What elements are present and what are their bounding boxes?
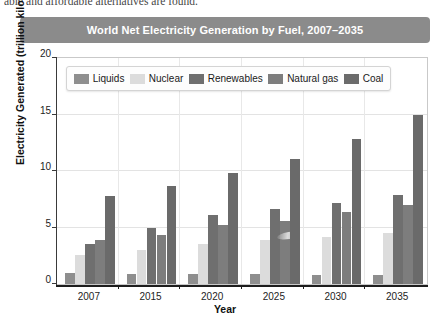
legend-label: Nuclear — [149, 73, 183, 84]
bar-coal-2020 — [228, 173, 237, 284]
plot-inner — [56, 58, 427, 284]
bar-renewables-2015 — [147, 228, 156, 285]
legend-item-coal: Coal — [344, 73, 384, 84]
bar-liquids-2007 — [65, 273, 74, 284]
bar-nuclear-2030 — [322, 237, 331, 284]
x-tick-label-2015: 2015 — [139, 291, 161, 302]
bar-nuclear-2007 — [75, 255, 84, 284]
plot-area — [56, 57, 428, 285]
x-tick — [241, 285, 242, 289]
bar-liquids-2020 — [188, 274, 197, 284]
x-tick-label-2030: 2030 — [324, 291, 346, 302]
y-axis: 05101520 — [56, 57, 57, 285]
bar-coal-2015 — [167, 186, 176, 284]
y-tick — [52, 57, 56, 58]
x-tick — [303, 285, 304, 289]
legend-label: Natural gas — [287, 73, 338, 84]
chart-legend: LiquidsNuclearRenewablesNatural gasCoal — [66, 66, 391, 91]
bar-natural-gas-2020 — [218, 225, 227, 284]
page-body-text: able and affordable alternatives are fou… — [4, 0, 264, 8]
y-tick-label: 15 — [40, 104, 51, 115]
x-tick — [179, 285, 180, 289]
bar-nuclear-2035 — [383, 233, 392, 284]
x-tick-label-2025: 2025 — [263, 291, 285, 302]
legend-swatch-icon — [344, 74, 359, 84]
bar-natural-gas-2007 — [95, 240, 104, 284]
y-tick-label: 10 — [40, 161, 51, 172]
chart-title-bar: World Net Electricity Generation by Fuel… — [20, 17, 430, 43]
group-separator — [179, 58, 180, 284]
x-tick-label-2035: 2035 — [386, 291, 408, 302]
legend-label: Liquids — [93, 73, 125, 84]
legend-swatch-icon — [74, 74, 89, 84]
bar-coal-2035 — [413, 115, 422, 285]
legend-item-nuclear: Nuclear — [130, 73, 183, 84]
x-tick-label-2020: 2020 — [201, 291, 223, 302]
bar-coal-2030 — [352, 139, 361, 284]
legend-swatch-icon — [130, 74, 145, 84]
group-separator — [118, 58, 119, 284]
chart-title: World Net Electricity Generation by Fuel… — [87, 24, 363, 36]
x-tick — [364, 285, 365, 289]
bar-nuclear-2025 — [260, 240, 269, 284]
y-tick-label: 20 — [40, 48, 51, 59]
legend-label: Renewables — [208, 73, 263, 84]
legend-item-natural-gas: Natural gas — [268, 73, 338, 84]
group-separator — [364, 58, 365, 284]
y-tick — [52, 114, 56, 115]
bar-natural-gas-2035 — [403, 205, 412, 284]
bar-renewables-2020 — [208, 215, 217, 284]
x-axis: 200720152020202520302035 — [56, 285, 428, 287]
legend-swatch-icon — [189, 74, 204, 84]
bar-renewables-2035 — [393, 195, 402, 284]
chart-figure: World Net Electricity Generation by Fuel… — [20, 17, 430, 309]
y-tick — [52, 283, 56, 284]
bar-nuclear-2015 — [137, 250, 146, 284]
bar-liquids-2030 — [312, 275, 321, 284]
legend-swatch-icon — [268, 74, 283, 84]
x-tick-label-2007: 2007 — [78, 291, 100, 302]
legend-label: Coal — [363, 73, 384, 84]
bar-coal-2007 — [105, 196, 114, 284]
bar-renewables-2030 — [332, 203, 341, 284]
bar-natural-gas-2025 — [280, 221, 289, 284]
y-tick-label: 5 — [45, 217, 51, 228]
bar-renewables-2025 — [270, 209, 279, 284]
bar-coal-2025 — [290, 159, 299, 284]
bar-liquids-2025 — [250, 274, 259, 284]
y-axis-title: Electricity Generated (trillion kilowatt… — [14, 0, 26, 165]
bar-natural-gas-2015 — [157, 235, 166, 284]
x-axis-title: Year — [20, 303, 430, 313]
bar-renewables-2007 — [85, 244, 94, 284]
bar-liquids-2015 — [127, 274, 136, 284]
bar-nuclear-2020 — [198, 244, 207, 284]
bar-natural-gas-2030 — [342, 212, 351, 284]
group-separator — [241, 58, 242, 284]
y-tick-label: 0 — [45, 274, 51, 285]
bar-liquids-2035 — [373, 275, 382, 284]
y-tick — [52, 227, 56, 228]
x-tick — [118, 285, 119, 289]
y-tick — [52, 170, 56, 171]
legend-item-liquids: Liquids — [74, 73, 125, 84]
group-separator — [303, 58, 304, 284]
legend-item-renewables: Renewables — [189, 73, 263, 84]
